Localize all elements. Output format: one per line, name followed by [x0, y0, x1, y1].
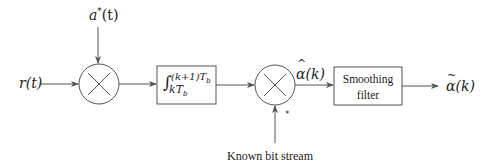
integrator-label: ∫ (k+1)Tb kTb	[163, 74, 213, 98]
tilde-accent: ~	[447, 69, 456, 82]
label-r-of-t: r(t)	[19, 75, 42, 91]
alpha-hat-arg: (k)	[305, 66, 324, 82]
r-of-t-text: r(t)	[19, 75, 42, 91]
a-arg: (t)	[102, 7, 119, 23]
label-alpha-tilde: ~α(k)	[446, 78, 475, 94]
integral-lower-limit: kTb	[169, 83, 188, 98]
multiplier-1	[79, 64, 119, 104]
smoothing-filter-label: Smoothing filter	[334, 71, 402, 103]
conjugate-star: *	[285, 109, 290, 119]
block-diagram-canvas	[0, 0, 490, 168]
multiplier-2	[255, 65, 295, 105]
filter-line2: filter	[334, 87, 402, 103]
alpha-tilde-arg: (k)	[455, 78, 474, 94]
label-alpha-hat: ^α(k)	[296, 66, 325, 82]
known-bit-stream-label: Known bit stream	[227, 149, 313, 164]
hat-accent: ^	[297, 57, 306, 70]
label-a-conj-of-t: a*(t)	[89, 6, 118, 23]
filter-line1: Smoothing	[334, 71, 402, 87]
